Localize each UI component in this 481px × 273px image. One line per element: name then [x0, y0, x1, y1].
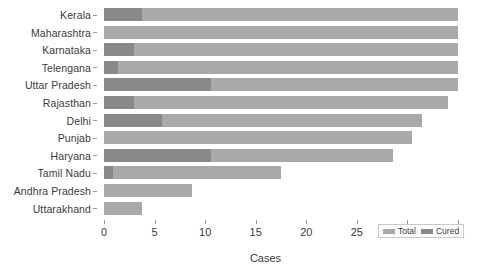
- bar-row: [104, 26, 458, 39]
- bar-segment-total: [104, 184, 192, 197]
- y-axis-tick: [93, 50, 97, 51]
- x-axis-tick-label: 0: [89, 226, 119, 239]
- x-axis-tick: [155, 220, 156, 224]
- y-axis-label: Rajasthan: [43, 97, 91, 109]
- x-axis-tick: [205, 220, 206, 224]
- bar-row: [104, 8, 458, 21]
- bar-row: [104, 131, 458, 144]
- bar-segment-cured: [104, 96, 134, 109]
- y-axis-label: Tamil Nadu: [37, 167, 91, 179]
- bar-segment-total: [104, 61, 458, 74]
- y-axis-label: Punjab: [58, 132, 91, 144]
- y-axis-tick: [93, 120, 97, 121]
- bar-row: [104, 166, 458, 179]
- bar-segment-cured: [104, 78, 211, 91]
- y-axis-label: Andhra Pradesh: [14, 185, 91, 197]
- y-axis-tick: [93, 103, 97, 104]
- y-axis-category-labels: KeralaMaharashtraKarnatakaTelenganaUttar…: [0, 6, 98, 218]
- bar-row: [104, 184, 458, 197]
- x-axis-tick: [104, 220, 105, 224]
- legend-entry-cured: Cured: [421, 227, 459, 236]
- total-swatch-icon: [383, 229, 395, 234]
- y-axis-label: Telengana: [42, 62, 91, 74]
- bar-segment-total: [104, 8, 458, 21]
- bar-segment-total: [104, 166, 281, 179]
- bar-chart: KeralaMaharashtraKarnatakaTelenganaUttar…: [0, 0, 481, 273]
- y-axis-tick: [93, 67, 97, 68]
- x-axis-tick-label: 20: [291, 226, 321, 239]
- x-axis: 05101520253035: [104, 220, 458, 221]
- bar-segment-total: [104, 131, 412, 144]
- legend-label-total: Total: [398, 227, 416, 236]
- chart-legend: Total Cured: [378, 224, 464, 238]
- bar-row: [104, 114, 458, 127]
- x-axis-tick: [256, 220, 257, 224]
- y-axis-label: Uttarakhand: [33, 203, 91, 215]
- y-axis-tick: [93, 173, 97, 174]
- plot-area: [104, 6, 458, 218]
- y-axis-label: Maharashtra: [31, 27, 91, 39]
- cured-swatch-icon: [421, 229, 433, 234]
- bar-segment-cured: [104, 8, 142, 21]
- bar-segment-total: [104, 43, 458, 56]
- y-axis-label: Haryana: [51, 150, 91, 162]
- y-axis-label: Uttar Pradesh: [25, 79, 91, 91]
- bar-segment-total: [104, 96, 448, 109]
- y-axis-tick: [93, 15, 97, 16]
- legend-label-cured: Cured: [436, 227, 459, 236]
- y-axis-tick: [93, 191, 97, 192]
- x-axis-tick: [306, 220, 307, 224]
- legend-entry-total: Total: [383, 227, 416, 236]
- bar-segment-cured: [104, 166, 113, 179]
- bar-row: [104, 61, 458, 74]
- x-axis-tick-label: 15: [241, 226, 271, 239]
- y-axis-label: Kerala: [60, 9, 91, 21]
- bar-row: [104, 96, 458, 109]
- y-axis-label: Delhi: [67, 115, 91, 127]
- bar-segment-cured: [104, 114, 162, 127]
- x-axis-title: Cases: [0, 252, 481, 264]
- y-axis-tick: [93, 138, 97, 139]
- y-axis-label: Karnataka: [42, 44, 91, 56]
- bar-row: [104, 202, 458, 215]
- bar-segment-total: [104, 202, 142, 215]
- y-axis-tick: [93, 85, 97, 86]
- x-axis-tick-label: 5: [140, 226, 170, 239]
- x-axis-tick-label: 25: [342, 226, 372, 239]
- bar-row: [104, 78, 458, 91]
- y-axis-tick: [93, 155, 97, 156]
- bar-row: [104, 43, 458, 56]
- bar-segment-cured: [104, 43, 134, 56]
- bar-segment-cured: [104, 149, 211, 162]
- bar-segment-cured: [104, 61, 118, 74]
- x-axis-tick: [357, 220, 358, 224]
- y-axis-tick: [93, 208, 97, 209]
- bar-row: [104, 149, 458, 162]
- bar-segment-total: [104, 26, 458, 39]
- x-axis-tick-label: 10: [190, 226, 220, 239]
- y-axis-tick: [93, 32, 97, 33]
